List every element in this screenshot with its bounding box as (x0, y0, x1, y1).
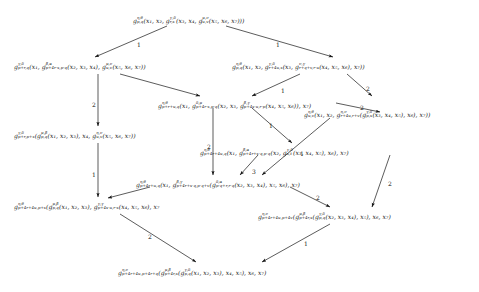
edge-center-mid-to-right-low-label: 2 (388, 180, 392, 187)
edge-center-low-to-left-lower (108, 187, 150, 198)
node-center-upper: gη,θp+r+u,q(x₁, gδ,μp+4r-s,p-q(x₂, x₃, g… (158, 101, 311, 109)
edge-center-low-to-right-low-label: 2 (316, 194, 320, 201)
edge-left-upper-to-center-up (120, 74, 200, 96)
edge-top-to-left-upper-label: 1 (137, 41, 141, 48)
edge-center-up-to-center-mid-label: 1 (269, 122, 273, 129)
diagram-canvas: gη,θp,q(x₁, x₂, gγ,δr,s(x₃, x₄, gμ,νu,v(… (0, 0, 479, 292)
edge-right-low-to-bottom-label: 1 (304, 240, 308, 247)
edge-right-upper-to-center-up-label: 1 (281, 87, 285, 94)
edge-left-mid-to-left-lower-label: 1 (92, 171, 96, 178)
node-top: gη,θp,q(x₁, x₂, gγ,δr,s(x₃, x₄, gμ,νu,v(… (133, 16, 244, 24)
edge-top-to-left-upper (95, 26, 167, 57)
edge-center-up-to-right-mid-label: 2 (360, 104, 364, 111)
edge-center-mid-to-center-low-label: 3 (252, 168, 256, 175)
node-bottom: gη,νp+4r+4u,p+4r+q(gμ,βp+4r,s(gγ,δp,q(x₁… (118, 268, 266, 276)
node-right-mid-upper: gη,θu,v(x₁, x₂, gη,νr+4u,r+v(gγ,δp,s(x₃,… (304, 110, 430, 118)
edge-left-upper-to-left-mid-label: 2 (92, 101, 96, 108)
edge-right-upper-to-right-mid-label: 2 (366, 85, 370, 92)
edge-left-lower-to-bottom-label: 2 (148, 233, 152, 240)
edge-center-low-to-right-low (290, 187, 330, 207)
node-right-lower: gη,νp+4r+4u,p+4v(gμ,βp+4r,s(gγ,δp,q(x₂, … (258, 212, 391, 220)
node-left-upper: gγ,δp+r,q(x₁, gβ,αp+4r-s,p-q(x₂, x₃, x₄)… (14, 62, 146, 70)
edge-center-up-to-center-low-label: 2 (207, 143, 211, 150)
edge-layer (0, 0, 479, 292)
node-left-lower: gη,θp+4r+4u,p+s(gμ,βp,q(x₁, x₂, x₃), gγ,… (14, 202, 160, 210)
edge-right-low-to-bottom (262, 224, 330, 262)
node-center-mid: gη,θp+4r+4u,q(x₁, gβ,αp+4r+s-q,p-q(x₂, g… (200, 148, 349, 156)
edge-top-to-right-upper-label: 1 (276, 41, 280, 48)
edge-right-mid-to-center-low-label: 1 (300, 150, 304, 157)
edge-left-lower-to-bottom (120, 214, 196, 262)
node-left-mid: gγ,δp+r,p+s(gμ,βp,q(x₁, x₂, x₃), x₄, gη,… (14, 131, 136, 139)
node-center-lower: gη,θp+4r+u,q(x₁, gβ,γp+4r+s-q,p-q+v(gδ,α… (136, 180, 300, 188)
edge-right-upper-to-center-up (252, 74, 300, 96)
node-right-upper: gη,θp,q(x₁, x₂, gγ,δr+4u,s(x₃, gν,γr+q+v… (232, 62, 365, 70)
